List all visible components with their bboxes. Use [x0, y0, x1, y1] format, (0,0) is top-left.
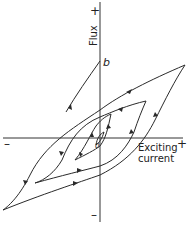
- current-axis-label-line2: current: [138, 153, 174, 164]
- flux-axis-label: Flux: [88, 25, 99, 46]
- current-minus-label: –: [4, 137, 10, 151]
- arrow-icon: [59, 151, 64, 156]
- flux-plus-label: +: [90, 4, 100, 18]
- current-plus-label: +: [177, 137, 187, 151]
- arrow-icon: [106, 124, 111, 129]
- current-axis-label-line1: Exciting: [138, 142, 178, 153]
- arrow-icon: [73, 181, 78, 186]
- flux-minus-label: –: [91, 208, 97, 222]
- hysteresis-diagram: + Flux – – Exciting current + b 0: [0, 0, 188, 225]
- initial-curve-b: [66, 61, 100, 112]
- point-b-label: b: [103, 56, 110, 69]
- arrow-icon: [118, 107, 123, 112]
- middle-loop-lower-branch: [35, 101, 146, 183]
- middle-loop-upper-branch: [35, 101, 146, 183]
